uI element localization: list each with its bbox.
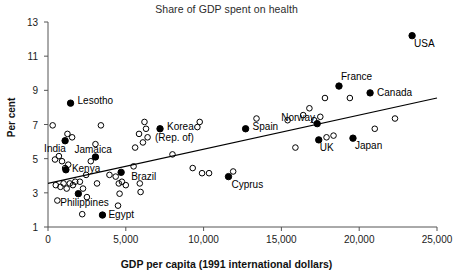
point-label-lesotho: Lesotho	[78, 95, 114, 106]
data-point-open	[347, 95, 353, 101]
point-label-usa: USA	[414, 38, 435, 49]
data-point-open	[331, 133, 337, 139]
data-point-filled	[99, 212, 105, 218]
data-point-open	[59, 158, 65, 164]
x-tick-label: 25,000	[422, 234, 453, 245]
data-point-filled	[242, 126, 248, 132]
point-label-norway: Norway	[281, 112, 315, 123]
data-point-open	[115, 203, 121, 209]
x-tick-label: 0	[45, 234, 51, 245]
y-tick-label: 7	[8, 119, 38, 130]
data-point-open	[318, 114, 324, 120]
data-point-open	[142, 119, 148, 125]
x-tick-label: 15,000	[266, 234, 297, 245]
y-tick-label: 13	[8, 17, 38, 28]
data-point-open	[140, 140, 146, 146]
x-tick-label: 10,000	[188, 234, 219, 245]
data-point-filled	[367, 90, 373, 96]
data-point-open	[136, 131, 142, 137]
y-tick-label: 5	[8, 153, 38, 164]
point-label-uk: UK	[320, 142, 334, 153]
data-point-filled	[336, 83, 342, 89]
data-point-open	[392, 116, 398, 122]
data-point-open	[113, 174, 119, 180]
data-point-open	[324, 135, 330, 141]
data-point-open	[98, 123, 104, 129]
data-point-open	[322, 95, 328, 101]
point-label-jamaica: Jamaica	[74, 144, 111, 155]
plot-area	[0, 0, 453, 274]
data-point-open	[50, 123, 56, 129]
data-point-open	[69, 135, 75, 141]
point-label-korea-rep-of: Korea(Rep. of)	[167, 121, 194, 143]
point-label-japan: Japan	[355, 140, 382, 151]
data-point-open	[206, 170, 212, 176]
data-point-open	[117, 191, 123, 197]
data-point-open	[55, 198, 61, 204]
data-point-open	[107, 172, 113, 178]
point-label-kenya: Kenya	[72, 163, 100, 174]
point-label-spain: Spain	[253, 121, 279, 132]
data-point-open	[145, 135, 151, 141]
x-tick-label: 20,000	[344, 234, 375, 245]
data-point-filled	[63, 167, 69, 173]
data-point-open	[94, 181, 100, 187]
data-point-open	[138, 189, 144, 195]
x-tick-label: 5,000	[113, 234, 138, 245]
point-label-india: India	[44, 143, 66, 154]
y-tick-label: 11	[8, 51, 38, 62]
data-point-open	[123, 182, 129, 188]
data-point-open	[132, 145, 138, 151]
data-point-open	[195, 124, 201, 130]
data-point-open	[64, 186, 70, 192]
point-label-canada: Canada	[377, 87, 412, 98]
data-point-open	[143, 126, 149, 132]
point-label-cyprus: Cyprus	[231, 179, 263, 190]
data-point-open	[52, 157, 58, 163]
point-label-brazil: Brazil	[131, 171, 156, 182]
point-label-philippines: Philippines	[60, 197, 108, 208]
chart-container: Share of GDP spent on health Per cent GD…	[0, 0, 453, 274]
data-point-open	[199, 170, 205, 176]
point-label-egypt: Egypt	[108, 209, 134, 220]
data-point-open	[372, 126, 378, 132]
y-tick-label: 3	[8, 187, 38, 198]
data-point-filled	[67, 100, 73, 106]
data-point-open	[307, 105, 313, 111]
data-points	[50, 32, 415, 218]
data-point-open	[80, 186, 86, 192]
data-point-open	[61, 181, 67, 187]
data-point-open	[79, 211, 85, 217]
y-tick-label: 9	[8, 85, 38, 96]
y-tick-label: 1	[8, 222, 38, 233]
data-point-filled	[118, 169, 124, 175]
data-point-open	[190, 165, 196, 171]
data-point-open	[230, 169, 236, 175]
point-label-france: France	[341, 71, 372, 82]
data-point-open	[293, 145, 299, 151]
